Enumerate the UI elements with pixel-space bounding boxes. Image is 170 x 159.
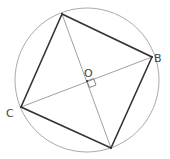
label-B: B bbox=[154, 52, 162, 65]
label-O: O bbox=[84, 67, 93, 80]
vertex-point-bottom bbox=[110, 147, 112, 149]
vertex-point-top bbox=[61, 13, 63, 15]
inscribed-square-diagram: B C O bbox=[0, 0, 170, 159]
vertex-point-B bbox=[151, 56, 153, 58]
center-point bbox=[86, 80, 88, 82]
vertex-point-C bbox=[20, 106, 22, 108]
label-C: C bbox=[6, 107, 14, 120]
